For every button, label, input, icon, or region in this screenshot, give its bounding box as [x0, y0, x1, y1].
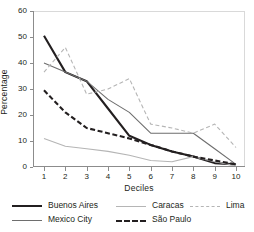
y-tick-label-0: 0 [5, 163, 27, 171]
x-tick-label-8: 8 [185, 172, 201, 181]
legend-label: Caracas [152, 199, 184, 211]
x-tick-mark [129, 167, 130, 171]
x-tick-mark [108, 167, 109, 171]
chart-legend: Buenos AiresMexico CityCaracasSão PauloL… [0, 199, 254, 229]
series-line-mexico-city [44, 63, 236, 164]
legend-label: Lima [226, 199, 244, 211]
legend-label: Mexico City [48, 213, 92, 225]
x-tick-mark [44, 167, 45, 171]
series-line-buenos-aires [44, 36, 236, 165]
x-tick-label-7: 7 [164, 172, 180, 181]
x-tick-label-10: 10 [228, 172, 244, 181]
legend-swatch-icon [12, 205, 42, 208]
legend-swatch-icon [190, 206, 220, 207]
x-tick-mark [87, 167, 88, 171]
x-tick-mark [65, 167, 66, 171]
x-tick-label-4: 4 [100, 172, 116, 181]
x-tick-label-9: 9 [207, 172, 223, 181]
y-tick-label-20: 20 [5, 111, 27, 119]
legend-label: São Paulo [152, 213, 191, 225]
x-tick-label-3: 3 [79, 172, 95, 181]
x-tick-label-6: 6 [143, 172, 159, 181]
x-tick-mark [151, 167, 152, 171]
x-tick-mark [193, 167, 194, 171]
series-lines [33, 11, 245, 167]
y-tick-mark [30, 167, 33, 168]
x-tick-label-2: 2 [57, 172, 73, 181]
legend-label: Buenos Aires [48, 199, 98, 211]
y-tick-label-60: 60 [5, 7, 27, 15]
x-tick-label-1: 1 [36, 172, 52, 181]
legend-swatch-icon [116, 206, 146, 208]
y-tick-label-50: 50 [5, 33, 27, 41]
x-tick-mark [236, 167, 237, 171]
y-tick-label-30: 30 [5, 85, 27, 93]
x-tick-label-5: 5 [121, 172, 137, 181]
x-tick-mark [172, 167, 173, 171]
y-tick-label-40: 40 [5, 59, 27, 67]
x-tick-mark [215, 167, 216, 171]
x-axis-label: Deciles [33, 183, 245, 193]
y-tick-label-10: 10 [5, 137, 27, 145]
chart-figure: Percentage 0102030405060 12345678910 Dec… [0, 0, 254, 232]
legend-swatch-icon [116, 220, 146, 222]
plot-area [33, 11, 245, 167]
series-line-lima [44, 47, 236, 147]
legend-swatch-icon [12, 220, 42, 221]
